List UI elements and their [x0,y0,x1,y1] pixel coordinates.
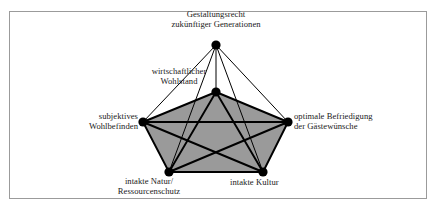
node-label-line2: der Gästewünsche [294,121,434,131]
node-label-optimale-befriedigung: optimale Befriedigung der Gästewünsche [294,111,434,132]
node-label-line2: Wohlstand [130,76,228,86]
graph-node-optimale-befriedigung [283,117,292,126]
node-label-subjektives-wohlbefinden: subjektives Wohlbefinden [34,111,138,132]
node-label-line1: optimale Befriedigung [294,111,434,121]
node-label-line1: wirtschaftlicher [130,66,228,76]
node-label-line1: subjektives [34,111,138,121]
node-label-wirtschaftlicher-wohlstand: wirtschaftlicher Wohlstand [130,66,228,87]
graph-node-intakte-kultur [258,167,267,176]
pentagon-network-graphic [0,0,440,212]
node-label-line2: zukünftiger Generationen [146,19,286,29]
node-label-line1: Gestaltungsrecht [146,9,286,19]
graph-node-gestaltungsrecht [211,40,220,49]
node-label-line2: Wohlbefinden [34,121,138,131]
node-label-gestaltungsrecht: Gestaltungsrecht zukünftiger Generatione… [146,9,286,30]
node-label-line1: intakte Kultur [230,177,322,187]
graph-node-wirtschaftlicher-wohlstand [211,87,220,96]
node-label-intakte-kultur: intakte Kultur [230,177,322,187]
node-label-intakte-natur: intakte Natur/ Ressourcenschutz [94,176,204,197]
diagram-root: Gestaltungsrecht zukünftiger Generatione… [0,0,440,212]
graph-node-subjektives-wohlbefinden [138,117,147,126]
node-label-line2: Ressourcenschutz [94,186,204,196]
node-label-line1: intakte Natur/ [94,176,204,186]
